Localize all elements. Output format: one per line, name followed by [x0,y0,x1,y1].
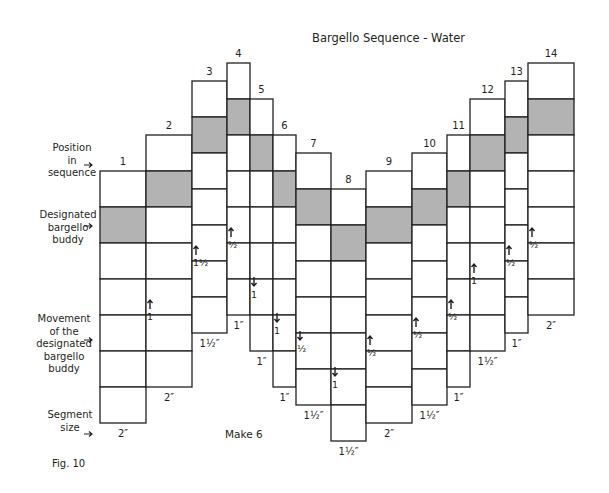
strip-segment [250,315,273,351]
buddy-segment [412,189,447,225]
buddy-segment [505,117,528,153]
strip-segment [331,405,366,441]
strip-14: 142″½ [528,48,574,331]
buddy-segment [250,135,273,171]
strip-segment [146,243,192,279]
strip-segment [192,225,227,261]
strip-segment [528,171,574,207]
strip-segment [366,243,412,279]
segment-size-label: 1½″ [339,446,359,457]
strip-8: 81½″1 [331,174,366,457]
segment-size-label: 2″ [384,428,394,439]
strip-segment [296,369,331,405]
side-label-line: Designated [39,209,96,220]
strip-segment [470,99,505,135]
position-number: 12 [481,84,494,95]
strip-segment [447,135,470,171]
strip-segment [528,135,574,171]
position-number: 14 [545,48,558,59]
strip-segment [100,315,146,351]
side-label-line: bargello [44,351,85,362]
strip-segment [505,189,528,225]
strip-segment [100,171,146,207]
side-labels: PositioninsequenceDesignatedbargellobudd… [36,142,96,437]
strip-segment [146,279,192,315]
strip-segment [447,243,470,279]
strip-segment [447,351,470,387]
strip-segment [227,279,250,315]
segment-size-label: 1″ [233,320,243,331]
diagram-title: Bargello Sequence - Water [312,31,465,45]
strip-segment [331,297,366,333]
buddy-segment [273,171,296,207]
strip-segment [366,387,412,423]
buddy-segment [528,99,574,135]
strip-segment [412,153,447,189]
strip-13: 131″½ [505,66,528,349]
side-label-line: Movement [38,313,91,324]
movement-label: 1 [471,275,477,286]
strip-segment [366,279,412,315]
strip-segment [505,297,528,333]
strip-segment [192,297,227,333]
strip-segment [100,387,146,423]
strip-segment [250,207,273,243]
movement-label: 1 [251,289,257,300]
position-number: 8 [345,174,351,185]
segment-size-label: 1″ [511,338,521,349]
strip-segment [100,243,146,279]
buddy-segment [331,225,366,261]
strip-segment [447,279,470,315]
position-number: 4 [235,48,241,59]
buddy-segment [447,171,470,207]
figure-caption: Fig. 10 [52,458,85,469]
position-number: 2 [166,120,172,131]
buddy-segment [146,171,192,207]
strip-segment [273,351,296,387]
strip-10: 101½″½ [412,138,447,421]
strip-segment [192,153,227,189]
segment-size-label: 1½″ [420,410,440,421]
movement-label: ½ [529,239,538,250]
strip-2: 22″1 [146,120,192,403]
segment-size-label: 2″ [546,320,556,331]
position-number: 5 [258,84,264,95]
buddy-segment [470,135,505,171]
strips: 12″22″131½″1½41″½51″161″171½″½81½″192″½1… [100,48,574,457]
position-number: 13 [510,66,523,77]
strip-segment [505,153,528,189]
strip-segment [273,135,296,171]
side-label-line: buddy [52,234,83,245]
strip-segment [331,189,366,225]
strip-segment [227,207,250,243]
strip-6: 61″1 [273,120,296,403]
strip-segment [100,279,146,315]
side-label-line: buddy [48,363,79,374]
position-number: 3 [206,66,212,77]
side-label-line: bargello [48,222,89,233]
movement-label: ½ [297,343,306,354]
side-label-line: in [67,155,76,166]
strip-segment [331,333,366,369]
make-note: Make 6 [225,428,263,440]
segment-size-label: 2″ [118,428,128,439]
strip-4: 41″½ [227,48,250,331]
segment-size-label: 1″ [256,356,266,367]
side-label-line: sequence [48,167,96,178]
strip-segment [227,135,250,171]
strip-segment [296,297,331,333]
strip-segment [250,99,273,135]
buddy-segment [366,207,412,243]
strip-segment [273,279,296,315]
strip-segment [366,315,412,351]
segment-size-label: 1″ [453,392,463,403]
strip-segment [412,261,447,297]
strip-segment [192,81,227,117]
strip-segment [331,261,366,297]
position-number: 11 [452,120,465,131]
segment-size-label: 1″ [279,392,289,403]
strip-7: 71½″½ [296,138,331,421]
strip-segment [227,63,250,99]
side-label-line: designated [36,338,92,349]
side-label-movement: Movementof thedesignatedbargellobuddy [36,313,92,374]
